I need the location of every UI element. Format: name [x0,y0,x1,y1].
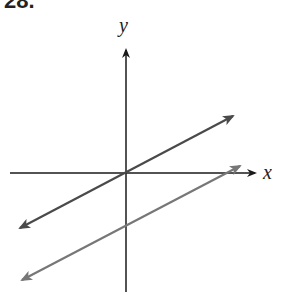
y-axis-label: y [117,14,128,37]
parallel-line-below [22,166,240,280]
coordinate-diagram: x y [0,0,282,307]
x-axis-label: x [262,161,272,183]
